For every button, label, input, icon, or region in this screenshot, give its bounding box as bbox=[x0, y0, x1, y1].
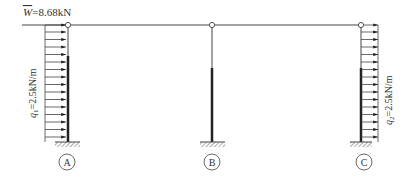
support-label-c: C bbox=[356, 154, 372, 170]
hinge-b-icon bbox=[209, 22, 214, 27]
load-q2-label: q2=2.5kN/m bbox=[383, 75, 396, 125]
load-q2-diagram bbox=[361, 25, 378, 142]
hinge-c-icon bbox=[358, 22, 363, 27]
fixed-support-c-icon bbox=[350, 142, 372, 147]
load-w-label: W=8.68kN bbox=[23, 6, 71, 18]
fixed-support-a-icon bbox=[55, 142, 80, 147]
support-label-b: B bbox=[204, 154, 220, 170]
load-q1-diagram bbox=[45, 25, 66, 142]
fixed-support-b-icon bbox=[200, 142, 225, 147]
frame-diagram: W=8.68kN q1=2.5kN/m bbox=[0, 0, 411, 186]
svg-text:C: C bbox=[361, 157, 368, 168]
hinge-a-icon bbox=[65, 22, 70, 27]
svg-text:B: B bbox=[209, 157, 216, 168]
svg-text:A: A bbox=[63, 157, 71, 168]
support-label-a: A bbox=[59, 154, 75, 170]
load-q1-label: q1=2.5kN/m bbox=[27, 68, 40, 118]
